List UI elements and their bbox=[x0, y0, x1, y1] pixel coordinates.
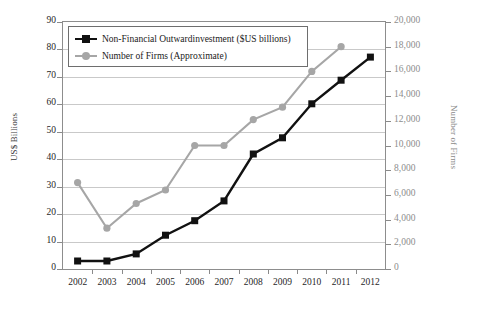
y-axis-right-tickmark bbox=[386, 244, 391, 245]
y-axis-left-tick-label: 80 bbox=[26, 42, 56, 52]
y-axis-right-tick-label: 20,000 bbox=[394, 15, 438, 25]
legend-marker-square-icon bbox=[75, 33, 97, 45]
chart-container: US$ Billions Number of Firms 01020304050… bbox=[0, 0, 480, 310]
data-point-marker bbox=[367, 54, 374, 61]
legend-label-firms: Number of Firms (Approximate) bbox=[102, 51, 227, 61]
y-axis-right-tickmark bbox=[386, 96, 391, 97]
x-axis-tick-label: 2012 bbox=[350, 277, 390, 287]
y-axis-right-tickmark bbox=[386, 121, 391, 122]
y-axis-right-tick-label: 10,000 bbox=[394, 139, 438, 149]
data-point-marker bbox=[162, 186, 169, 193]
y-axis-left-tick-label: 90 bbox=[26, 15, 56, 25]
y-axis-right-tick-label: 6,000 bbox=[394, 188, 438, 198]
data-point-marker bbox=[279, 134, 286, 141]
data-point-marker bbox=[308, 68, 315, 75]
data-point-marker bbox=[162, 232, 169, 239]
data-point-marker bbox=[279, 104, 286, 111]
chart-legend: Non-Financial Outwardinvestment ($US bil… bbox=[68, 26, 308, 67]
data-point-marker bbox=[338, 43, 345, 50]
data-point-marker bbox=[103, 258, 110, 265]
y-axis-left-tick-label: 50 bbox=[26, 125, 56, 135]
series-line bbox=[78, 47, 342, 229]
data-point-marker bbox=[74, 179, 81, 186]
legend-label-investment: Non-Financial Outwardinvestment ($US bil… bbox=[102, 34, 291, 44]
y-axis-right-tickmark bbox=[386, 220, 391, 221]
legend-item-investment: Non-Financial Outwardinvestment ($US bil… bbox=[75, 30, 301, 47]
y-axis-right-tick-label: 4,000 bbox=[394, 213, 438, 223]
data-point-marker bbox=[220, 142, 227, 149]
data-point-marker bbox=[103, 225, 110, 232]
data-point-marker bbox=[250, 116, 257, 123]
data-point-marker bbox=[338, 77, 345, 84]
y-axis-left-title: US$ Billions bbox=[9, 97, 19, 177]
y-axis-right-tick-label: 0 bbox=[394, 262, 438, 272]
data-point-marker bbox=[191, 142, 198, 149]
data-point-marker bbox=[74, 258, 81, 265]
series-line bbox=[78, 57, 371, 261]
y-axis-left-tick-label: 60 bbox=[26, 97, 56, 107]
y-axis-right-tickmark bbox=[386, 170, 391, 171]
y-axis-right-tick-label: 18,000 bbox=[394, 40, 438, 50]
y-axis-right-tick-label: 2,000 bbox=[394, 237, 438, 247]
y-axis-left-tick-label: 20 bbox=[26, 207, 56, 217]
data-point-marker bbox=[191, 217, 198, 224]
y-axis-right-tick-label: 16,000 bbox=[394, 64, 438, 74]
data-point-marker bbox=[221, 197, 228, 204]
y-axis-right-tickmark bbox=[386, 146, 391, 147]
data-point-marker bbox=[308, 100, 315, 107]
y-axis-right-tick-label: 8,000 bbox=[394, 163, 438, 173]
y-axis-right-tickmark bbox=[386, 71, 391, 72]
y-axis-left-tick-label: 70 bbox=[26, 70, 56, 80]
y-axis-left-tick-label: 30 bbox=[26, 180, 56, 190]
legend-item-firms: Number of Firms (Approximate) bbox=[75, 47, 301, 64]
y-axis-left-tick-label: 40 bbox=[26, 152, 56, 162]
data-point-marker bbox=[250, 151, 257, 158]
y-axis-right-tick-label: 12,000 bbox=[394, 114, 438, 124]
data-point-marker bbox=[133, 250, 140, 257]
y-axis-left-tick-label: 0 bbox=[26, 262, 56, 272]
y-axis-right-tickmark bbox=[386, 269, 391, 270]
y-axis-right-tickmark bbox=[386, 47, 391, 48]
y-axis-right-title: Number of Firms bbox=[449, 97, 459, 177]
y-axis-right-tickmark bbox=[386, 22, 391, 23]
legend-marker-circle-icon bbox=[75, 50, 97, 62]
y-axis-left-tick-label: 10 bbox=[26, 235, 56, 245]
y-axis-right-tick-label: 14,000 bbox=[394, 89, 438, 99]
data-point-marker bbox=[133, 200, 140, 207]
y-axis-right-tickmark bbox=[386, 195, 391, 196]
